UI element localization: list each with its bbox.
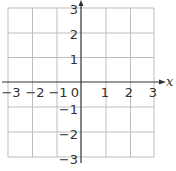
x-axis-label: x xyxy=(166,74,174,89)
x-axis xyxy=(2,80,166,85)
y-tick-label: 1 xyxy=(70,52,78,67)
x-tick-label: 2 xyxy=(125,85,133,100)
x-axis-arrow-icon xyxy=(159,80,166,85)
coordinate-grid: x −3 −2 −1 0 1 2 3 3 2 1 −1 −2 −3 xyxy=(0,0,176,171)
y-tick-label: 2 xyxy=(70,27,78,42)
x-tick-label: 1 xyxy=(101,85,109,100)
y-tick-label: 3 xyxy=(70,2,78,17)
x-tick-label: −2 xyxy=(25,85,44,100)
y-axis-arrow-icon xyxy=(79,0,84,6)
y-tick-label: −2 xyxy=(59,127,78,142)
x-tick-label: −3 xyxy=(1,85,20,100)
x-tick-labels: −3 −2 −1 0 1 2 3 xyxy=(1,85,157,100)
x-tick-label: 0 xyxy=(71,85,79,100)
x-tick-label: 3 xyxy=(149,85,157,100)
x-tick-label: −1 xyxy=(48,85,67,100)
y-tick-label: −3 xyxy=(59,152,78,167)
y-tick-label: −1 xyxy=(59,102,78,117)
